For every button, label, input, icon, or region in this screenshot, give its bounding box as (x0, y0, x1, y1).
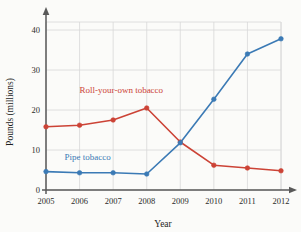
x-tick-label-2011: 2011 (239, 196, 256, 206)
data-point-marker (245, 52, 250, 57)
series-label-roll-your-own-tobacco: Roll-your-own tobacco (80, 85, 164, 95)
data-point-marker (279, 169, 284, 174)
y-tick-label-10: 10 (32, 145, 41, 155)
data-point-marker (212, 163, 217, 168)
data-point-marker (77, 171, 82, 176)
x-tick-label-2010: 2010 (205, 196, 222, 206)
data-point-marker (178, 141, 183, 146)
y-tick-label-0: 0 (36, 185, 40, 195)
y-tick-label-40: 40 (32, 25, 41, 35)
x-axis-title: Year (154, 219, 172, 229)
x-tick-label-2012: 2012 (273, 196, 290, 206)
y-axis-title: Pounds (millions) (5, 78, 16, 146)
x-tick-label-2006: 2006 (71, 196, 88, 206)
data-point-marker (44, 125, 49, 130)
x-tick-label-2005: 2005 (38, 196, 55, 206)
line-chart: 010203040 200520062007200820092010201120… (0, 0, 301, 232)
chart-figure: 010203040 200520062007200820092010201120… (0, 0, 301, 232)
data-point-marker (212, 97, 217, 102)
data-point-marker (111, 171, 116, 176)
x-tick-label-2007: 2007 (105, 196, 122, 206)
data-point-marker (245, 166, 250, 171)
data-point-marker (144, 106, 149, 111)
data-point-marker (279, 37, 284, 42)
y-tick-label-30: 30 (32, 65, 41, 75)
data-point-marker (77, 123, 82, 128)
series-label-pipe-tobacco: Pipe tobacco (64, 152, 111, 162)
data-point-marker (44, 169, 49, 174)
data-point-marker (111, 118, 116, 123)
x-tick-label-2009: 2009 (172, 196, 189, 206)
x-tick-label-2008: 2008 (138, 196, 155, 206)
y-tick-label-20: 20 (32, 105, 41, 115)
data-point-marker (144, 172, 149, 177)
